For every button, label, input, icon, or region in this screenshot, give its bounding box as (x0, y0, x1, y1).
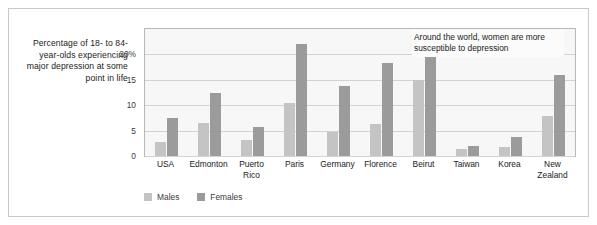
x-tick-label: Paris (273, 159, 316, 170)
bar-group (327, 29, 350, 156)
x-tick-label: Edmonton (187, 159, 230, 170)
bar-males (370, 124, 381, 157)
bar-group (370, 29, 393, 156)
legend-label: Females (210, 192, 242, 202)
x-tick-label: Korea (488, 159, 531, 170)
x-tick-label: Taiwan (445, 159, 488, 170)
y-tick-label: 15 (76, 75, 136, 85)
chart-annotation-callout: Around the world, women are more suscept… (412, 30, 564, 57)
chart-figure: Percentage of 18- to 84-year-olds experi… (0, 0, 597, 225)
bar-females (210, 93, 221, 157)
y-tick-label: 10 (76, 100, 136, 110)
x-tick-label: Florence (359, 159, 402, 170)
y-tick-label: 20% (76, 49, 136, 59)
legend-swatch-icon (144, 193, 152, 201)
gridline (145, 156, 575, 157)
y-axis-tick-labels: 05101520% (0, 28, 140, 157)
x-tick-label: Beirut (402, 159, 445, 170)
bar-males (155, 142, 166, 156)
bar-males (198, 123, 209, 156)
bar-females (554, 75, 565, 156)
bar-males (284, 103, 295, 156)
bar-females (253, 127, 264, 156)
bar-males (499, 147, 510, 156)
bar-group (284, 29, 307, 156)
bar-females (382, 63, 393, 156)
bar-males (413, 80, 424, 156)
bar-females (339, 86, 350, 156)
chart-legend: MalesFemales (144, 192, 242, 202)
legend-label: Males (157, 192, 179, 202)
legend-swatch-icon (197, 193, 205, 201)
bar-females (167, 118, 178, 156)
x-tick-label: Germany (316, 159, 359, 170)
x-tick-label: New Zealand (531, 159, 574, 180)
x-tick-label: Puerto Rico (230, 159, 273, 180)
bar-males (241, 140, 252, 156)
bar-males (542, 116, 553, 156)
legend-item: Females (197, 192, 242, 202)
y-tick-label: 5 (76, 126, 136, 136)
x-tick-label: USA (144, 159, 187, 170)
x-axis-tick-labels: USAEdmontonPuerto RicoParisGermanyFloren… (144, 159, 576, 189)
bar-group (198, 29, 221, 156)
bar-group (155, 29, 178, 156)
y-tick-label: 0 (76, 151, 136, 161)
bar-group (241, 29, 264, 156)
bar-females (296, 44, 307, 156)
bar-females (468, 146, 479, 156)
legend-item: Males (144, 192, 179, 202)
bar-females (511, 137, 522, 156)
bar-males (327, 132, 338, 156)
bar-males (456, 149, 467, 156)
